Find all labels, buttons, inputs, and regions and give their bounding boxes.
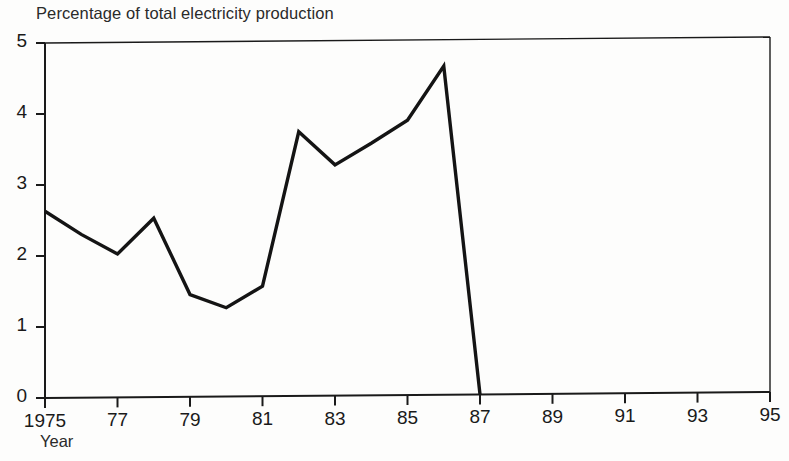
series-line-0 [45, 66, 480, 394]
line-chart-plot [0, 0, 789, 461]
y-tick-label-5: 5 [1, 30, 27, 52]
x-tick-label-93: 93 [681, 405, 715, 427]
data-series [45, 66, 480, 394]
y-tick-label-3: 3 [1, 172, 27, 194]
chart-figure: Percentage of total electricity producti… [0, 0, 789, 461]
y-tick-label-2: 2 [1, 243, 27, 265]
x-tick-label-1975: 1975 [15, 410, 75, 432]
x-tick-label-87: 87 [463, 406, 497, 428]
x-axis-title: Year [40, 432, 73, 451]
y-tick-label-1: 1 [1, 314, 27, 336]
x-tick-label-77: 77 [101, 409, 135, 431]
x-tick-label-79: 79 [173, 409, 207, 431]
x-tick-label-85: 85 [391, 407, 425, 429]
plot-top-border [45, 37, 770, 43]
x-tick-label-95: 95 [753, 404, 787, 426]
x-tick-label-89: 89 [536, 406, 570, 428]
x-tick-label-91: 91 [608, 405, 642, 427]
x-tick-label-81: 81 [246, 408, 280, 430]
y-tick-label-4: 4 [1, 101, 27, 123]
x-tick-label-83: 83 [318, 408, 352, 430]
y-tick-label-0: 0 [1, 385, 27, 407]
